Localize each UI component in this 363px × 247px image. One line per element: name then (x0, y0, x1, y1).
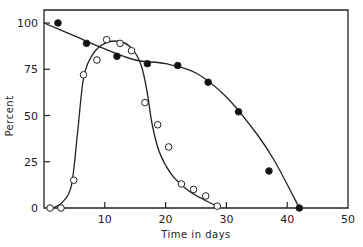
axes-box (44, 10, 348, 208)
open-data-point (103, 36, 110, 43)
open-data-point (190, 186, 197, 193)
filled-data-point (296, 205, 303, 212)
filled-data-point (266, 168, 273, 175)
x-tick-label: 20 (159, 213, 173, 226)
y-axis-title: Percent (4, 95, 15, 136)
filled-data-point (83, 40, 90, 47)
x-tick-label: 30 (219, 213, 233, 226)
open-data-point (214, 203, 221, 210)
filled-data-point (114, 53, 121, 60)
filled-data-point (144, 60, 151, 67)
rise-fall-curve (53, 41, 217, 208)
filled-data-point (205, 79, 212, 86)
fit-curves (44, 23, 299, 208)
open-data-point (58, 205, 65, 212)
open-data-point (70, 177, 77, 184)
plot-frame (44, 10, 348, 208)
open-data-point (165, 144, 172, 151)
declining-curve (44, 23, 299, 208)
x-tick-label: 40 (280, 213, 294, 226)
open-data-point (94, 57, 101, 64)
y-tick-label: 50 (24, 110, 38, 123)
open-data-point (142, 99, 149, 106)
x-axis-title: Time in days (160, 229, 231, 240)
open-data-point (178, 181, 185, 188)
filled-data-point (235, 109, 242, 116)
data-points (47, 20, 303, 212)
filled-data-point (174, 62, 181, 69)
open-data-point (202, 193, 209, 200)
open-data-point (117, 40, 124, 47)
open-data-point (154, 121, 161, 128)
y-tick-label: 75 (24, 63, 38, 76)
open-data-point (47, 205, 54, 212)
chart: 10203040500255075100 Time in days Percen… (0, 0, 363, 247)
open-data-point (128, 47, 135, 54)
y-tick-label: 0 (31, 202, 38, 215)
filled-data-point (55, 20, 62, 27)
y-tick-label: 25 (24, 156, 38, 169)
y-tick-label: 100 (17, 17, 38, 30)
open-data-point (80, 72, 87, 79)
x-tick-label: 10 (98, 213, 112, 226)
x-tick-label: 50 (341, 213, 355, 226)
